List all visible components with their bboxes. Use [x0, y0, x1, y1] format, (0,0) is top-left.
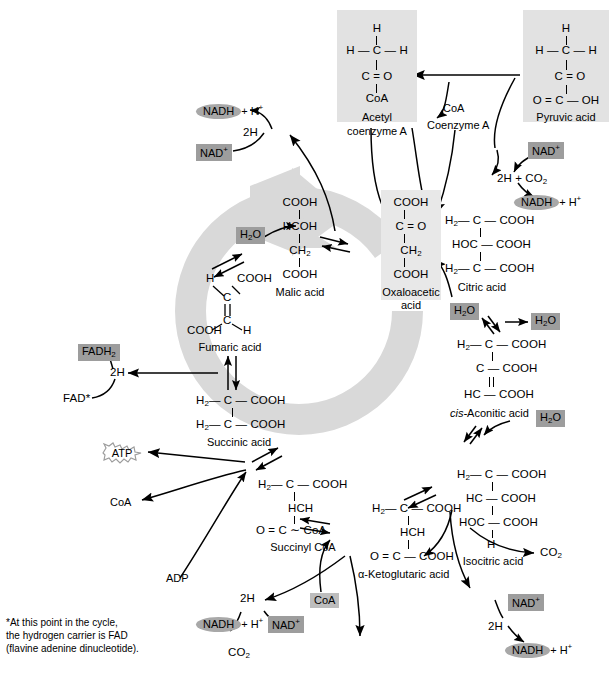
- acetyl-coa-line3: C = O: [337, 70, 417, 82]
- malic-line1: COOH: [270, 196, 330, 208]
- nadh-pill-top-left: NADH: [196, 104, 241, 119]
- oxaloacetic-line1: COOH: [381, 196, 441, 208]
- nad-plus-bottom-left: NAD+: [268, 616, 304, 633]
- nadh-bottom-left: NADH+ H+: [196, 616, 263, 632]
- oxaloacetic-name-2: acid: [366, 300, 456, 312]
- isocitric-line2: HC — COOH: [466, 492, 536, 504]
- fad-label: FAD*: [63, 392, 90, 404]
- h2o-malic: H2O: [236, 227, 265, 244]
- citric-line1: H2— C — COOH: [445, 214, 534, 229]
- citric-line3: H2— C — COOH: [445, 262, 534, 277]
- acetyl-coa-name-2: coenzyme A: [327, 126, 427, 138]
- two-h-co2-pyruvate: 2H + CO2: [497, 172, 547, 187]
- aconitic-line1: H2— C — COOH: [457, 338, 546, 353]
- two-h-bottom-right: 2H: [488, 620, 503, 632]
- oxaloacetic-line3: CH2: [381, 244, 441, 259]
- co2-bottom-left: CO2: [228, 646, 250, 661]
- fumaric-bonds: [180, 268, 270, 334]
- aconitic-line2: C — COOH: [476, 362, 538, 374]
- coa-top-label: CoA: [443, 103, 464, 115]
- succinic-line1: H2— C — COOH: [196, 394, 285, 409]
- pyruvic-acid-name: Pyruvic acid: [518, 112, 614, 124]
- fadh2-chip: FADH2: [78, 344, 120, 361]
- pyruvic-acid-line4: O = C — OH: [523, 94, 609, 106]
- nad-plus-pyruvate: NAD+: [528, 142, 564, 159]
- nadh-top-left: NADH+ H+: [196, 103, 263, 119]
- isocitric-line4: H: [487, 538, 495, 550]
- arrow-atp-formation: [148, 452, 245, 462]
- arrow-adp-in: [180, 472, 246, 578]
- malic-line4: COOH: [270, 268, 330, 280]
- malic-line2: HCOH: [270, 220, 330, 232]
- ketoglutaric-line2: HCH: [400, 526, 425, 538]
- pyruvic-acid-line2: H — C — H: [523, 44, 609, 56]
- arrow-succinylcoa-succinate: [252, 448, 282, 470]
- co2-bottom-right: CO2: [540, 546, 562, 561]
- citric-line2: HOC — COOH: [452, 238, 531, 250]
- two-h-bottom-left: 2H: [240, 592, 255, 604]
- succinylcoa-line2: HCH: [288, 502, 313, 514]
- coa-bottom-label: CoA: [310, 593, 339, 608]
- acetyl-coa-name-1: Acetyl: [332, 112, 422, 124]
- citric-acid-name: Citric acid: [437, 282, 527, 294]
- oxaloacetic-line2: C = O: [381, 220, 441, 232]
- h2o-citric: H2O: [450, 303, 479, 320]
- coenzyme-a-top-label: Coenzyme A: [427, 120, 489, 132]
- succinic-line2: H2— C — COOH: [196, 418, 285, 433]
- succinylcoa-line1: H2— C — COOH: [258, 478, 347, 493]
- coa-left-label: CoA: [110, 497, 131, 509]
- succinylcoa-line3: O = C ∼ CoA: [256, 524, 326, 536]
- succinic-acid-name: Succinic acid: [186, 437, 292, 449]
- pyruvic-acid-line3: C = O: [527, 70, 613, 82]
- diagram-vector-layer: [0, 0, 614, 673]
- oxaloacetic-line4: COOH: [381, 268, 441, 280]
- fumaric-acid-name: Fumaric acid: [180, 342, 280, 354]
- footnote-text: *At this point in the cycle, the hydroge…: [6, 617, 139, 655]
- isocitric-line3: HOC — COOH: [459, 516, 538, 528]
- nadh-pyruvate: NADH+ H+: [514, 194, 581, 210]
- malic-line3: CH2: [270, 244, 330, 259]
- nadh-bottom-right: NADH+ H+: [505, 642, 572, 658]
- malic-acid-name: Malic acid: [262, 287, 338, 299]
- arrow-aconitate-isocitrate: [464, 421, 510, 444]
- krebs-cycle-diagram: H H — C — H C = O CoA Acetyl coenzyme A …: [0, 0, 614, 673]
- two-h-top-left: 2H: [243, 126, 258, 138]
- isocitric-line1: H2— C — COOH: [457, 468, 546, 483]
- nadh-plus-h-top-left: + H: [241, 105, 258, 117]
- two-h-fad: 2H: [110, 366, 125, 378]
- acetyl-coa-line1: H: [337, 22, 417, 34]
- cis-aconitic-acid-name: cis-Aconitic acid: [450, 408, 529, 420]
- nad-plus-bottom-right: NAD+: [508, 594, 544, 611]
- ketoglutaric-acid-name: α-Ketoglutaric acid: [358, 569, 449, 581]
- h2o-aconitic-out: H2O: [531, 313, 560, 330]
- adp-label: ADP: [166, 573, 189, 585]
- pyruvic-acid-line1: H: [523, 22, 609, 34]
- acetyl-coa-line4: CoA: [337, 92, 417, 104]
- ketoglutaric-line3: O = C — COOH: [370, 550, 454, 562]
- ketoglutaric-line1: H2— C — COOH: [372, 502, 461, 517]
- arrow-pyruvate-to-acetylcoa: [413, 75, 520, 148]
- isocitric-acid-name: Isocitric acid: [443, 556, 543, 568]
- nad-plus-top-left: NAD+: [196, 144, 232, 161]
- succinyl-coa-name: Succinyl CoA: [252, 542, 354, 554]
- atp-label: ATP: [100, 442, 144, 464]
- h2o-isocitric: H2O: [536, 410, 565, 427]
- aconitic-line3: HC — COOH: [464, 388, 534, 400]
- acetyl-coa-line2: H — C — H: [337, 44, 417, 56]
- arrow-citrate-aconitate: [482, 316, 528, 334]
